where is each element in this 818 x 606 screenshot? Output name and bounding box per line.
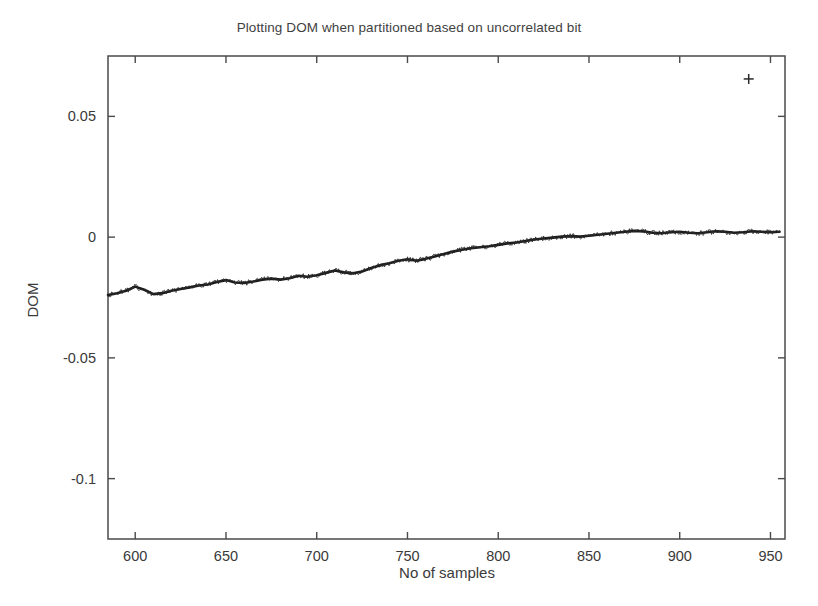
x-axis-ticks: 600650700750800850900950 xyxy=(123,56,782,564)
data-series xyxy=(108,229,780,297)
y-tick-label: 0 xyxy=(88,229,96,245)
isolated-plus-marker xyxy=(744,74,754,84)
x-tick-label: 700 xyxy=(305,548,329,564)
y-tick-label: -0.05 xyxy=(63,350,96,366)
plot-frame xyxy=(108,56,785,539)
series-noise-band xyxy=(108,229,780,297)
x-tick-label: 600 xyxy=(123,548,147,564)
y-tick-label: 0.05 xyxy=(68,108,96,124)
y-tick-label: -0.1 xyxy=(71,471,96,487)
x-tick-label: 900 xyxy=(668,548,692,564)
plot-border xyxy=(108,56,785,539)
series-line xyxy=(108,231,780,295)
chart-figure: Plotting DOM when partitioned based on u… xyxy=(0,0,818,606)
y-axis-ticks: 0.050-0.05-0.1 xyxy=(63,108,785,486)
x-tick-label: 750 xyxy=(395,548,419,564)
x-tick-label: 950 xyxy=(758,548,782,564)
chart-annotations xyxy=(744,74,754,84)
y-axis-title: DOM xyxy=(24,283,41,318)
x-axis-title: No of samples xyxy=(399,564,495,581)
x-tick-label: 850 xyxy=(577,548,601,564)
plot-canvas: 600650700750800850900950 0.050-0.05-0.1 … xyxy=(0,0,818,606)
x-tick-label: 650 xyxy=(214,548,238,564)
x-tick-label: 800 xyxy=(486,548,510,564)
